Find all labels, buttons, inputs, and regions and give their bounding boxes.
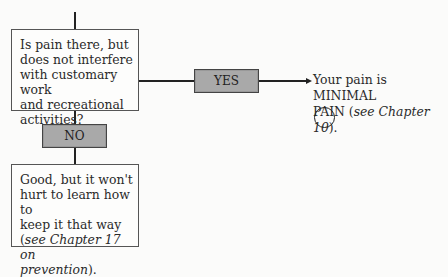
- yes-connector-right: [258, 80, 308, 82]
- no-result-box: Good, but it won't hurt to learn how to …: [11, 164, 139, 247]
- no-result-line: prevention).: [20, 262, 138, 277]
- incoming-connector: [74, 12, 76, 30]
- no-label: NO: [42, 124, 107, 148]
- no-connector-bottom: [74, 147, 76, 165]
- yes-label: YES: [194, 69, 259, 93]
- question-line: does not interfere: [20, 52, 138, 67]
- no-result-line: hurt to learn how to: [20, 187, 138, 217]
- chapter-reference-cont: prevention: [20, 262, 88, 277]
- no-result-line: Good, but it won't: [20, 172, 138, 187]
- question-line: and recreational: [20, 97, 138, 112]
- yes-result-line1: Your pain is MINIMAL: [313, 72, 448, 104]
- no-result-line: (see Chapter 17 on: [20, 232, 138, 262]
- paren-close: ).: [88, 262, 97, 277]
- yes-result: Your pain is MINIMAL PAIN (see Chapter 1…: [313, 72, 448, 136]
- arrow-head-icon: [306, 78, 312, 84]
- question-line: with customary work: [20, 67, 138, 97]
- yes-connector-left: [138, 80, 195, 82]
- question-box: Is pain there, but does not interfere wi…: [11, 29, 139, 111]
- checkbox-circle-icon[interactable]: [314, 107, 335, 128]
- chapter-reference: see Chapter 17 on: [20, 232, 121, 262]
- no-result-line: keep it that way: [20, 217, 138, 232]
- question-line: Is pain there, but: [20, 37, 138, 52]
